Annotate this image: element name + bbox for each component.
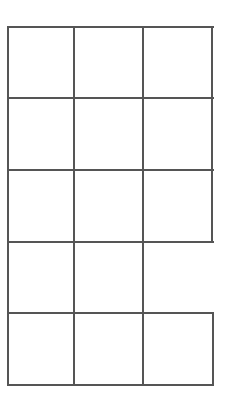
- grid-line-row-4: [7, 312, 214, 314]
- grid-line-col-1: [73, 26, 75, 386]
- grid-line-top: [7, 26, 214, 28]
- grid-line-row-2: [7, 169, 214, 171]
- grid-line-col-2: [142, 26, 144, 386]
- grid-line-right-upper: [211, 26, 213, 243]
- grid-line-row-3: [7, 241, 214, 243]
- grid-line-left: [7, 26, 9, 386]
- grid-line-bottom: [7, 384, 214, 386]
- grid-line-right-lower: [212, 312, 214, 386]
- grid-diagram: [0, 0, 236, 400]
- grid-line-row-1: [7, 97, 214, 99]
